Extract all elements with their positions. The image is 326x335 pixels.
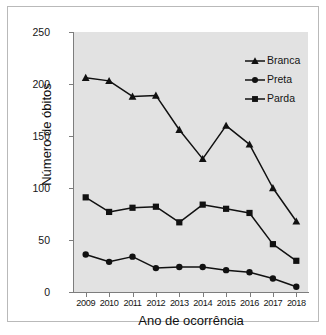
y-tick-mark [69,32,73,33]
data-point [246,210,252,216]
triangle-marker-icon [244,55,266,67]
series-preta [83,251,300,290]
data-point [106,209,112,215]
data-point [269,184,277,191]
x-axis-title: Ano de ocorrência [74,313,308,328]
data-point [270,275,276,281]
data-point [200,264,206,270]
data-point [222,122,230,129]
x-tick-mark [156,293,157,297]
y-tick-label: 50 [10,235,50,245]
x-tick-mark [273,293,274,297]
data-point [176,264,182,270]
data-point [106,259,112,265]
data-point [293,258,299,264]
data-point [129,253,135,259]
y-tick-mark [69,84,73,85]
y-tick-mark [69,292,73,293]
x-tick-mark [133,293,134,297]
data-point [223,267,229,273]
data-point [270,241,276,247]
legend-item-branca[interactable]: Branca [244,51,320,70]
x-tick-mark [203,293,204,297]
data-point [176,219,182,225]
data-point [129,205,135,211]
y-axis-title: Número de óbitos [39,35,54,235]
data-point [83,251,89,257]
data-point [293,284,299,290]
figure-frame: 050100150200250 200920102011201220132014… [7,6,319,322]
y-tick-mark [69,136,73,137]
data-point [83,194,89,200]
x-tick-label: 2018 [279,298,313,309]
square-marker-icon [244,93,266,105]
series-parda [83,194,300,264]
data-point [153,265,159,271]
circle-marker-icon [244,74,266,86]
x-tick-mark [86,293,87,297]
x-tick-mark [179,293,180,297]
y-axis-line [73,32,74,293]
legend-item-preta[interactable]: Preta [244,70,320,89]
legend-label: Preta [266,74,292,85]
legend-label: Parda [266,93,295,104]
legend-item-parda[interactable]: Parda [244,89,320,108]
data-point [223,206,229,212]
y-tick-label: 0 [10,287,50,297]
data-point [246,269,252,275]
chart-figure: 050100150200250 200920102011201220132014… [0,0,326,335]
data-point [200,202,206,208]
y-tick-mark [69,240,73,241]
chart-legend: BrancaPretaParda [244,51,320,108]
x-tick-mark [109,293,110,297]
series-line [86,255,297,287]
y-tick-mark [69,188,73,189]
x-tick-mark [296,293,297,297]
x-tick-mark [250,293,251,297]
x-tick-mark [226,293,227,297]
data-point [153,204,159,210]
series-line [86,197,297,260]
legend-label: Branca [266,55,300,66]
